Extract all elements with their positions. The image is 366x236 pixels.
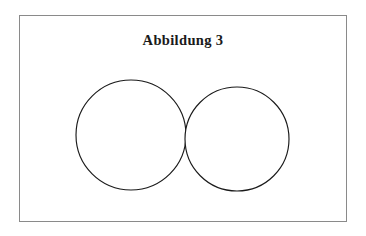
figure-page: Abbildung 3 <box>0 0 366 236</box>
figure-frame: Abbildung 3 <box>19 15 347 222</box>
venn-left-circle <box>76 80 186 190</box>
venn-right-circle <box>185 87 289 191</box>
venn-diagram <box>20 16 348 223</box>
